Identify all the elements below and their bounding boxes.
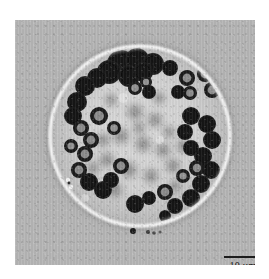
cell-image <box>15 20 255 265</box>
scale-bar-label: 10 µm <box>215 260 255 265</box>
micrograph-figure: 10 µm <box>0 0 269 279</box>
scale-bar: 10 µm <box>215 256 255 265</box>
scale-bar-line <box>224 256 255 258</box>
micrograph-panel: 10 µm <box>15 20 255 265</box>
